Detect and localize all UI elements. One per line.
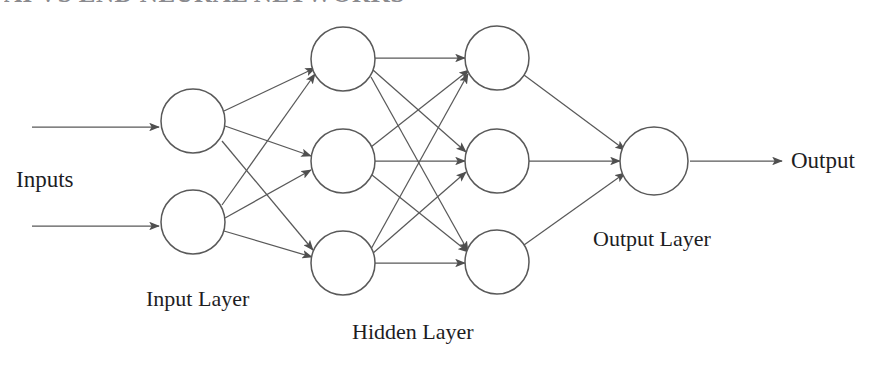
- edge-in2-h3: [224, 231, 312, 257]
- edge-h1-3-h2-2: [372, 172, 466, 254]
- edge-group-hidden2-to-output: [524, 75, 625, 245]
- edge-in2-h2: [225, 170, 311, 218]
- neural-network-diagram: AI VS END NEURAL NETWORKS: [0, 0, 876, 365]
- inputs-label: Inputs: [16, 168, 74, 191]
- node-input-1: [161, 89, 225, 153]
- edge-in1-h1: [224, 68, 315, 111]
- edge-h2-1-out: [524, 75, 625, 150]
- edge-h1-1-h2-3: [371, 77, 468, 251]
- node-hidden2-1: [465, 26, 529, 90]
- output-layer-label: Output Layer: [593, 228, 711, 250]
- edge-group-input-to-hidden1: [222, 68, 315, 257]
- node-output-1: [620, 127, 688, 195]
- node-hidden1-1: [311, 27, 375, 91]
- hidden-layer-label: Hidden Layer: [352, 321, 474, 343]
- network-graph-canvas: [0, 0, 876, 365]
- edge-group-hidden1-to-hidden2: [371, 58, 469, 263]
- node-hidden1-2: [311, 129, 375, 193]
- edge-h1-2-h2-3: [372, 175, 468, 252]
- output-label: Output: [791, 149, 855, 172]
- node-input-2: [161, 190, 225, 254]
- input-layer-label: Input Layer: [146, 288, 249, 310]
- node-hidden2-3: [465, 230, 529, 294]
- edge-in1-h3: [222, 141, 313, 250]
- edge-h1-1-h2-2: [373, 70, 466, 152]
- node-hidden2-2: [465, 129, 529, 193]
- node-hidden1-3: [311, 231, 375, 295]
- edge-in2-h1: [222, 74, 315, 205]
